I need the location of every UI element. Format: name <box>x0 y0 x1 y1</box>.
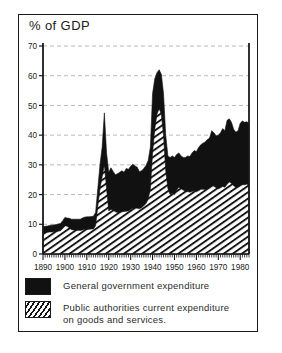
chart-legend: General government expenditure Public au… <box>25 278 253 331</box>
x-tick-label: 1950 <box>165 263 184 272</box>
y-tick-label: 0 <box>32 250 37 259</box>
x-tick-label: 1960 <box>187 263 206 272</box>
x-tick-label: 1910 <box>78 263 97 272</box>
plot-area: 010203040506070 189019001910192019301940… <box>19 15 259 277</box>
x-axis-tick-labels: 1890190019101920193019401950196019701980 <box>34 254 250 272</box>
y-tick-label: 60 <box>28 72 38 81</box>
legend-item-label: General government expenditure <box>63 278 209 292</box>
y-tick-label: 10 <box>28 220 38 229</box>
legend-item-general-government: General government expenditure <box>25 278 253 295</box>
diagonal-hatch-swatch <box>25 301 51 318</box>
series-layer <box>43 70 249 254</box>
y-tick-label: 70 <box>28 42 38 51</box>
solid-black-swatch <box>25 278 51 295</box>
legend-item-label: Public authorities current expenditure o… <box>63 301 243 325</box>
x-tick-label: 1970 <box>209 263 228 272</box>
y-tick-label: 30 <box>28 161 38 170</box>
legend-item-public-authorities: Public authorities current expenditure o… <box>25 301 253 325</box>
x-tick-label: 1920 <box>100 263 119 272</box>
x-tick-label: 1940 <box>143 263 162 272</box>
x-tick-label: 1900 <box>56 263 75 272</box>
y-axis-tick-labels: 010203040506070 <box>28 42 43 259</box>
x-tick-label: 1980 <box>231 263 250 272</box>
y-tick-label: 40 <box>28 131 38 140</box>
area-chart-svg: 010203040506070 189019001910192019301940… <box>19 15 259 277</box>
chart-figure: % of GDP 010203040506070 189019001910192… <box>18 14 258 332</box>
y-tick-label: 20 <box>28 191 38 200</box>
y-tick-label: 50 <box>28 102 38 111</box>
x-tick-label: 1890 <box>34 263 53 272</box>
x-tick-label: 1930 <box>122 263 141 272</box>
